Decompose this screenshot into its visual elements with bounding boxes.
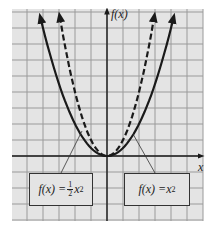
x-axis-label: x xyxy=(198,160,203,175)
label-x-squared: f(x) = x2 xyxy=(124,173,190,206)
label-prefix: f(x) = xyxy=(38,182,66,197)
label-exp: 2 xyxy=(80,185,84,194)
y-axis-label: f(x) xyxy=(111,7,128,22)
label-exp: 2 xyxy=(172,185,176,194)
fraction: 1 2 xyxy=(67,181,73,198)
label-half-x-squared: f(x) = 1 2 x2 xyxy=(29,173,93,206)
label-prefix: f(x) = xyxy=(138,182,166,197)
